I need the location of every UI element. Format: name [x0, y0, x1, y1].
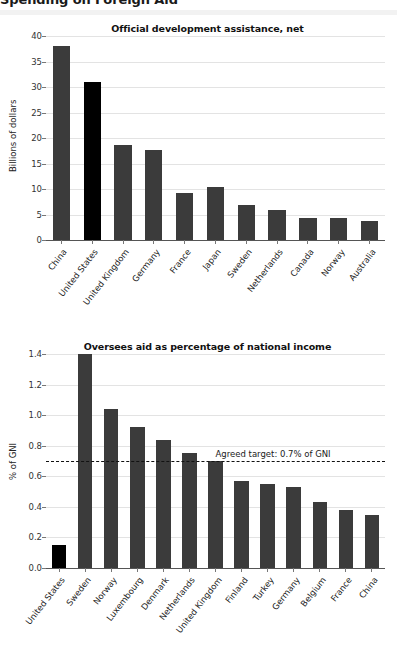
bar-slot [231, 36, 262, 240]
y-tick-label: 0.2 [28, 532, 42, 542]
bar-netherlands[interactable] [182, 453, 197, 568]
chart-1-x-labels: ChinaUnited StatesUnited KingdomGermanyF… [46, 240, 385, 330]
bar-slot [262, 36, 293, 240]
y-tick-label: 35 [31, 57, 42, 67]
x-label-slot: Sweden [72, 568, 98, 646]
bar-united-kingdom[interactable] [208, 461, 223, 568]
x-tick-label: Turkey [251, 575, 276, 603]
x-label-slot: Finland [229, 568, 255, 646]
y-tick-label: 0.4 [28, 502, 42, 512]
x-label-slot: Japan [200, 240, 231, 330]
chart-1-y-axis-label: Billions of dollars [8, 100, 18, 172]
bar-slot [200, 36, 231, 240]
x-label-slot: United Kingdom [202, 568, 228, 646]
chart-2-title: Oversees aid as percentage of national i… [0, 340, 397, 354]
x-label-slot: China [359, 568, 385, 646]
chart-1-plot-area: 0510152025303540 ChinaUnited StatesUnite… [46, 36, 385, 241]
chart-2-y-axis-label: % of GNI [8, 443, 18, 480]
x-label-slot: United States [46, 568, 72, 646]
bar-slot [108, 36, 139, 240]
bar-slot [169, 36, 200, 240]
x-tick-label: France [328, 575, 353, 603]
x-label-slot: Norway [323, 240, 354, 330]
bar-united-kingdom[interactable] [114, 145, 131, 240]
bar-slot [354, 36, 385, 240]
y-tick-label: 0.6 [28, 471, 42, 481]
chart-1-plot-wrap: 0510152025303540 ChinaUnited StatesUnite… [46, 36, 385, 241]
bar-finland[interactable] [234, 481, 249, 568]
bar-united-states[interactable] [84, 82, 101, 240]
y-tick-label: 0.8 [28, 441, 42, 451]
y-tick-label: 1.2 [28, 380, 42, 390]
chart-oversees-aid-percentage: Oversees aid as percentage of national i… [0, 340, 397, 646]
y-tick-label: 15 [31, 159, 42, 169]
x-label-slot: Australia [354, 240, 385, 330]
chart-2-plot-area: 0.00.20.40.60.81.01.21.4 Agreed target: … [46, 354, 385, 569]
page-title: Spending on Foreign Aid [0, 0, 397, 10]
bar-china[interactable] [53, 46, 70, 240]
target-threshold-label: Agreed target: 0.7% of GNI [216, 449, 331, 461]
bar-united-states[interactable] [52, 545, 67, 568]
y-tick-label: 1.4 [28, 349, 42, 359]
chart-1-title: Official development assistance, net [0, 22, 397, 36]
bar-japan[interactable] [207, 187, 224, 240]
bar-netherlands[interactable] [268, 210, 285, 240]
y-tick-label: 25 [31, 108, 42, 118]
x-label-slot: France [169, 240, 200, 330]
y-tick-label: 1.0 [28, 410, 42, 420]
y-tick-label: 0.0 [28, 563, 42, 573]
bar-norway[interactable] [330, 218, 347, 240]
x-tick-label: Canada [288, 247, 316, 279]
y-tick-label: 10 [31, 184, 42, 194]
x-tick-label: China [357, 575, 380, 600]
bar-slot [293, 36, 324, 240]
bar-france[interactable] [176, 193, 193, 240]
bar-luxembourg[interactable] [130, 427, 145, 568]
bar-slot [46, 36, 77, 240]
bar-china[interactable] [365, 515, 380, 569]
x-label-slot: Germany [138, 240, 169, 330]
bar-sweden[interactable] [238, 205, 255, 240]
page-header: Spending on Foreign Aid [0, 0, 397, 10]
bar-germany[interactable] [286, 487, 301, 568]
x-label-slot: Netherlands [262, 240, 293, 330]
x-label-slot: France [333, 568, 359, 646]
chart-official-development-assistance: Official development assistance, net Bil… [0, 22, 397, 322]
chart-2-plot-wrap: 0.00.20.40.60.81.01.21.4 Agreed target: … [46, 354, 385, 569]
bar-germany[interactable] [145, 150, 162, 240]
y-tick-label: 30 [31, 82, 42, 92]
bar-canada[interactable] [299, 218, 316, 240]
x-label-slot: Belgium [307, 568, 333, 646]
target-threshold-line [46, 461, 385, 462]
header-divider [0, 10, 397, 15]
x-label-slot: Germany [281, 568, 307, 646]
bar-france[interactable] [339, 510, 354, 568]
bar-turkey[interactable] [260, 484, 275, 568]
bar-slot [77, 36, 108, 240]
y-tick-label: 20 [31, 133, 42, 143]
bar-australia[interactable] [361, 221, 378, 240]
bar-slot [138, 36, 169, 240]
chart-2-x-labels: United StatesSwedenNorwayLuxembourgDenma… [46, 568, 385, 646]
x-tick-label: France [167, 247, 192, 275]
x-tick-label: Norway [319, 247, 347, 279]
x-tick-label: United States [24, 575, 67, 627]
x-label-slot: United Kingdom [108, 240, 139, 330]
bar-denmark[interactable] [156, 440, 171, 568]
bar-belgium[interactable] [313, 502, 328, 568]
x-tick-label: Japan [201, 247, 223, 272]
y-tick-label: 40 [31, 31, 42, 41]
bar-slot [323, 36, 354, 240]
chart-1-bars [46, 36, 385, 240]
bar-norway[interactable] [104, 409, 119, 568]
x-tick-label: China [46, 247, 69, 272]
x-label-slot: Canada [293, 240, 324, 330]
